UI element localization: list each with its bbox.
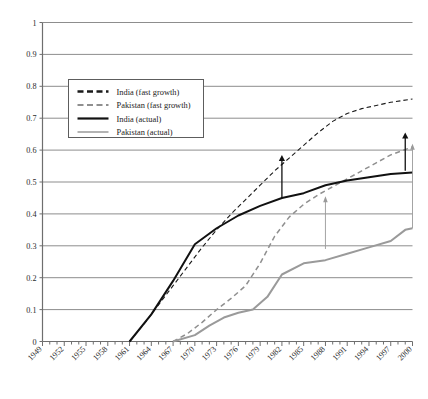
y-tick-label: 0.9 [26, 50, 36, 59]
line-chart: 00.10.20.30.40.50.60.70.80.91 1949195219… [0, 0, 428, 399]
legend-label: Pakistan (actual) [117, 128, 173, 137]
y-tick-label: 1 [32, 19, 36, 28]
legend-label: India (actual) [117, 115, 162, 124]
chart-legend: India (fast growth)Pakistan (fast growth… [69, 80, 204, 138]
y-tick-label: 0.7 [26, 114, 36, 123]
chart-container: 00.10.20.30.40.50.60.70.80.91 1949195219… [0, 0, 428, 399]
y-tick-label: 0.5 [26, 178, 36, 187]
legend-label: Pakistan (fast growth) [117, 101, 191, 110]
y-tick-label: 0.6 [26, 146, 36, 155]
legend-label: India (fast growth) [117, 88, 180, 97]
y-tick-label: 0.2 [26, 274, 36, 283]
y-tick-label: 0.4 [26, 210, 36, 219]
y-tick-label: 0.1 [26, 306, 36, 315]
chart-background [0, 0, 428, 399]
y-tick-label: 0.8 [26, 82, 36, 91]
y-tick-label: 0.3 [26, 242, 36, 251]
